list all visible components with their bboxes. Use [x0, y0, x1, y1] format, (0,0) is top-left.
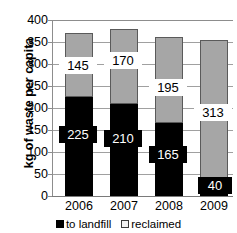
x-tick-2006: 2006 — [56, 199, 102, 214]
x-tick-2008: 2008 — [146, 199, 192, 214]
y-tickmark-50 — [48, 174, 52, 175]
data-label-2008-reclaimed: 195 — [149, 79, 187, 96]
gridline-400 — [52, 20, 233, 21]
y-tickmark-150 — [48, 130, 52, 131]
data-label-2006-reclaimed: 145 — [59, 57, 97, 74]
legend-label-reclaimed: reclaimed — [131, 218, 181, 230]
data-label-2006-landfill: 225 — [59, 126, 97, 143]
y-tick-100: 100 — [14, 147, 48, 157]
y-axis-line — [52, 20, 53, 197]
y-tick-400: 400 — [14, 15, 48, 25]
y-tickmark-350 — [48, 42, 52, 43]
data-label-2009-landfill: 40 — [198, 177, 232, 194]
x-tick-2009: 2009 — [191, 199, 237, 214]
y-tickmark-0 — [48, 196, 52, 197]
data-label-2007-landfill: 210 — [104, 130, 142, 147]
y-tick-250: 250 — [14, 81, 48, 91]
bar-2008[interactable] — [155, 37, 183, 196]
legend-label-to-landfill: to landfill — [66, 218, 111, 230]
x-tick-2007: 2007 — [101, 199, 147, 214]
y-tick-150: 150 — [14, 125, 48, 135]
legend-swatch-grey-icon — [121, 220, 129, 228]
stacked-bar-chart: kg of waste per capita 400 350 300 250 2… — [0, 0, 237, 233]
y-tickmark-200 — [48, 108, 52, 109]
x-axis-line — [52, 196, 233, 197]
legend-item-reclaimed[interactable]: reclaimed — [121, 218, 181, 230]
data-label-2008-landfill: 165 — [149, 146, 187, 163]
y-tickmark-300 — [48, 64, 52, 65]
y-tick-350: 350 — [14, 37, 48, 47]
y-tickmark-250 — [48, 86, 52, 87]
bar-2006-landfill-segment[interactable] — [65, 97, 93, 196]
y-tickmark-100 — [48, 152, 52, 153]
data-label-2007-reclaimed: 170 — [104, 52, 142, 69]
y-tickmark-400 — [48, 20, 52, 21]
bar-2007-landfill-segment[interactable] — [110, 104, 138, 196]
chart-legend: to landfill reclaimed — [0, 216, 237, 232]
y-tick-50: 50 — [14, 169, 48, 179]
legend-swatch-black-icon — [56, 220, 64, 228]
y-tick-200: 200 — [14, 103, 48, 113]
plot-area: 145 170 195 313 225 210 165 40 — [52, 20, 233, 196]
y-axis-tick-labels: 400 350 300 250 200 150 100 50 0 — [10, 0, 48, 233]
y-tick-300: 300 — [14, 59, 48, 69]
y-tick-0: 0 — [14, 191, 48, 201]
data-label-2009-reclaimed: 313 — [194, 104, 232, 121]
x-axis-tick-labels: 2006 2007 2008 2009 — [52, 199, 233, 215]
legend-item-to-landfill[interactable]: to landfill — [56, 218, 111, 230]
